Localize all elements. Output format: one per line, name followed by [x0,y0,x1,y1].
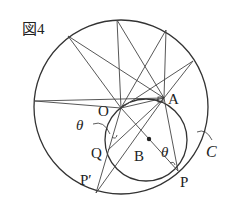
label-theta-right: θ [161,144,169,160]
point-b [147,137,151,141]
label-a: A [168,91,179,107]
figure-title: 図4 [22,21,45,37]
label-o: O [98,103,109,119]
label-c: C [206,143,217,160]
label-b: B [134,148,144,164]
label-p-prime: P′ [80,172,92,188]
label-p: P [180,174,188,190]
label-q: Q [91,145,102,161]
circle-c [105,99,187,181]
geometry-figure: 図4 O A B P Q P′ C θ θ [0,0,243,224]
label-theta-left: θ [76,117,84,133]
